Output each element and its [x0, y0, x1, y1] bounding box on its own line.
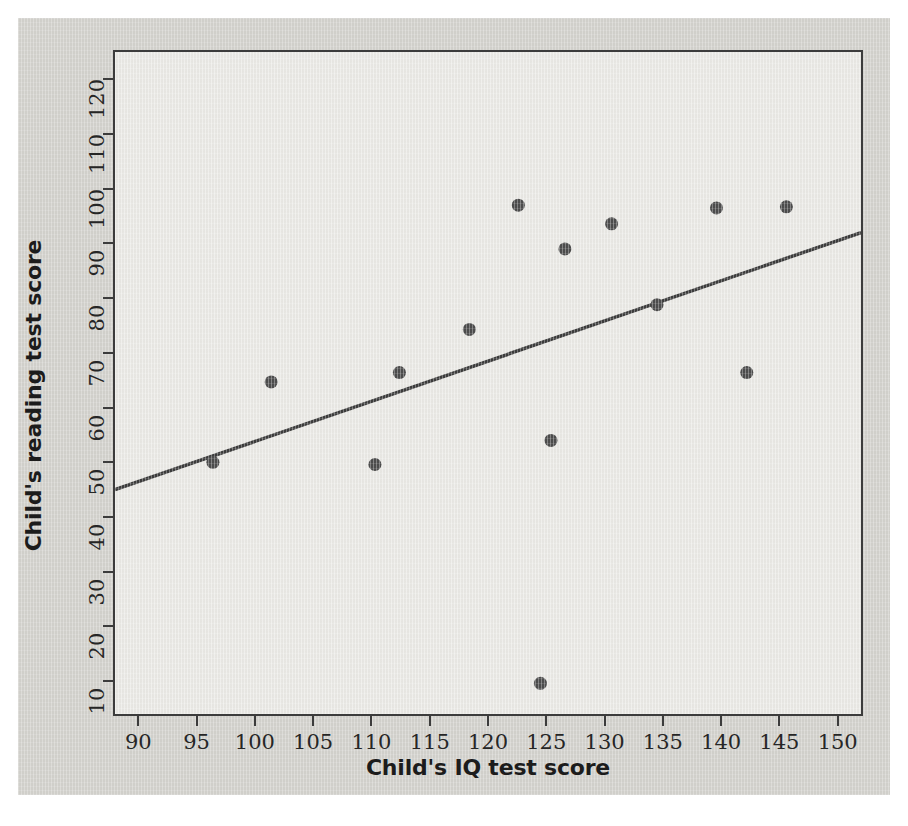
scatter-point — [393, 366, 406, 379]
x-tick-mark — [604, 716, 606, 726]
scatter-point — [710, 201, 723, 214]
x-tick-label: 120 — [468, 730, 508, 754]
x-tick-label: 145 — [759, 730, 799, 754]
scatter-point — [740, 366, 753, 379]
x-tick-mark — [662, 716, 664, 726]
y-tick-label: 20 — [85, 626, 109, 666]
x-tick-label: 130 — [585, 730, 625, 754]
y-tick-label: 10 — [85, 681, 109, 721]
regression-line — [115, 233, 861, 490]
scatter-point — [368, 458, 381, 471]
x-tick-label: 125 — [526, 730, 566, 754]
y-tick-label: 100 — [85, 189, 109, 229]
figure-page: 9095100105110115120125130135140145150 10… — [0, 0, 908, 826]
x-tick-mark — [312, 716, 314, 726]
plot-graphics — [115, 52, 861, 714]
y-tick-label: 120 — [85, 79, 109, 119]
x-tick-mark — [837, 716, 839, 726]
y-tick-label: 80 — [85, 298, 109, 338]
x-tick-mark — [429, 716, 431, 726]
x-tick-mark — [487, 716, 489, 726]
scatter-point — [544, 434, 557, 447]
plot-panel — [113, 50, 863, 716]
x-tick-label: 105 — [293, 730, 333, 754]
fit-line — [115, 233, 861, 490]
x-tick-mark — [778, 716, 780, 726]
scatter-point — [558, 242, 571, 255]
y-tick-label: 50 — [85, 462, 109, 502]
y-axis-label: Child's reading test score — [21, 63, 46, 729]
x-tick-mark — [254, 716, 256, 726]
scatter-point — [206, 456, 219, 469]
scatter-point — [605, 217, 618, 230]
scatter-point — [651, 298, 664, 311]
x-tick-mark — [545, 716, 547, 726]
scatter-point — [463, 323, 476, 336]
y-tick-label: 70 — [85, 353, 109, 393]
y-tick-label: 40 — [85, 517, 109, 557]
x-tick-label: 90 — [125, 730, 152, 754]
x-tick-label: 150 — [818, 730, 858, 754]
x-tick-mark — [137, 716, 139, 726]
scatter-point — [265, 375, 278, 388]
y-tick-label: 60 — [85, 408, 109, 448]
x-tick-label: 140 — [701, 730, 741, 754]
x-tick-label: 100 — [235, 730, 275, 754]
x-tick-mark — [370, 716, 372, 726]
x-tick-mark — [196, 716, 198, 726]
x-tick-label: 115 — [410, 730, 450, 754]
scatter-point — [512, 199, 525, 212]
data-points — [206, 199, 792, 690]
x-tick-label: 110 — [351, 730, 391, 754]
y-tick-label: 110 — [85, 134, 109, 174]
x-tick-label: 135 — [643, 730, 683, 754]
x-tick-mark — [720, 716, 722, 726]
scatter-point — [780, 200, 793, 213]
x-axis-label: Child's IQ test score — [113, 755, 863, 780]
scatter-point — [534, 677, 547, 690]
y-tick-label: 90 — [85, 243, 109, 283]
x-tick-label: 95 — [183, 730, 210, 754]
y-tick-label: 30 — [85, 572, 109, 612]
